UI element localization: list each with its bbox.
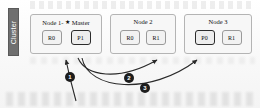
step-marker-3: 3 [140,83,150,93]
step-marker-2: 2 [124,73,134,83]
cluster-diagram: Cluster Node 1- ★ Master R0 P1 Node 2 R0… [0,0,260,108]
arrow-step-3 [82,58,197,85]
arrow-layer [0,0,260,108]
step-marker-1: 1 [65,72,75,82]
